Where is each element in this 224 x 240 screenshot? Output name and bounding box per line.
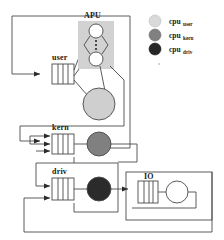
cpu-user-server bbox=[83, 88, 115, 120]
figure-canvas: user APU kern driv IO cpu user cpu kern … bbox=[0, 0, 224, 240]
queueing-network-diagram: user APU kern driv IO cpu user cpu kern … bbox=[0, 0, 224, 240]
apu-ellipsis-icon bbox=[95, 40, 97, 50]
legend-swatch-cpu-driv bbox=[149, 43, 161, 55]
legend-swatch-cpu-kern bbox=[149, 29, 161, 41]
legend-sublabel-cpu-driv: driv bbox=[183, 49, 193, 55]
io-station-label: IO bbox=[144, 172, 154, 181]
cpu-kern-server bbox=[87, 132, 111, 156]
kern-input-arrows bbox=[36, 136, 50, 151]
cpu-driv-server bbox=[87, 177, 111, 201]
apu-node-top bbox=[89, 24, 103, 38]
legend-label-cpu-driv: cpu bbox=[169, 45, 181, 54]
legend-label-cpu-kern: cpu bbox=[169, 31, 181, 40]
io-station bbox=[138, 181, 188, 203]
legend-label-cpu-user: cpu bbox=[169, 17, 181, 26]
apu-label: APU bbox=[84, 11, 101, 20]
io-server bbox=[166, 181, 188, 203]
kern-station bbox=[52, 132, 111, 156]
kern-station-label: kern bbox=[52, 123, 69, 132]
apu-group bbox=[78, 21, 114, 69]
legend-item-cpu-user: cpu user bbox=[149, 15, 193, 27]
user-station-label: user bbox=[52, 53, 68, 62]
legend-item-cpu-kern: cpu kern bbox=[149, 29, 193, 41]
apu-node-bottom bbox=[89, 52, 103, 66]
legend-sublabel-cpu-kern: kern bbox=[183, 35, 193, 41]
user-to-cpuuser-link bbox=[74, 80, 88, 96]
legend: cpu user cpu kern cpu driv bbox=[149, 15, 193, 65]
legend-item-cpu-driv: cpu driv bbox=[149, 43, 193, 55]
driv-station-label: driv bbox=[52, 167, 67, 176]
kern-input-bus bbox=[30, 136, 36, 144]
io-queue-box bbox=[138, 181, 158, 203]
driv-station bbox=[52, 177, 111, 201]
kern-output-links bbox=[111, 144, 137, 162]
legend-sublabel-cpu-user: user bbox=[183, 21, 193, 27]
legend-swatch-cpu-user bbox=[149, 15, 161, 27]
legend-stray-dot bbox=[158, 63, 160, 65]
